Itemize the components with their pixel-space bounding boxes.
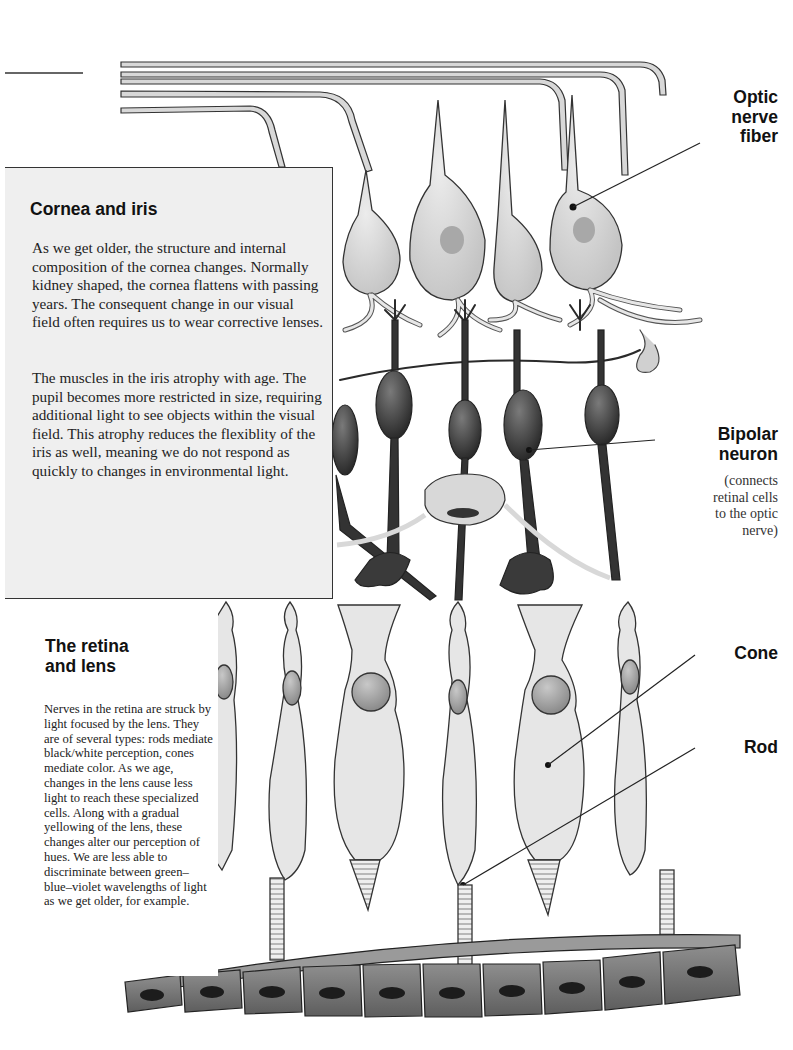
cornea-iris-panel: Cornea and iris As we get older, the str… — [5, 167, 333, 599]
cone-cell — [334, 605, 404, 860]
label-optic-nerve-fiber: Optic nerve fiber — [690, 88, 778, 147]
cornea-iris-title: Cornea and iris — [30, 199, 157, 220]
retina-lens-panel: The retina and lens Nerves in the retina… — [0, 600, 218, 976]
rod-cell — [269, 602, 306, 880]
retina-lens-title: The retina and lens — [45, 636, 129, 676]
optic-nerve-fibers — [121, 62, 666, 175]
label-bipolar-neuron-note: (connects retinal cells to the optic ner… — [640, 473, 778, 539]
label-rod: Rod — [690, 738, 778, 758]
ganglion-cells — [343, 95, 622, 302]
rod-cell — [615, 602, 647, 875]
iris-paragraph: The muscles in the iris atrophy with age… — [32, 369, 324, 481]
rod-cell — [443, 602, 477, 885]
label-cone: Cone — [690, 644, 778, 664]
rod-cell — [215, 602, 237, 870]
photoreceptors — [215, 602, 674, 973]
retina-lens-paragraph: Nerves in the retina are struck by light… — [44, 702, 216, 909]
label-bipolar-neuron: Bipolar neuron — [660, 425, 778, 464]
cone-cell — [514, 605, 584, 860]
cornea-paragraph: As we get older, the structure and inter… — [32, 239, 324, 332]
